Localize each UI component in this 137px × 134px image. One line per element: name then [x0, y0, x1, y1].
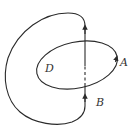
region-d-label: D — [44, 62, 54, 75]
point-b-label: B — [95, 96, 104, 109]
diagram-svg: D A B — [0, 0, 137, 134]
ellipse-arrow-icon — [116, 58, 117, 62]
diagram-canvas: D A B — [0, 0, 137, 134]
point-a-label: A — [119, 56, 128, 69]
